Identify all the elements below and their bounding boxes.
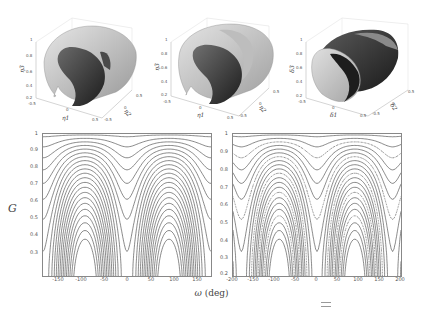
contour-line bbox=[233, 169, 401, 276]
z-tick: 1 bbox=[300, 38, 303, 42]
contour-line bbox=[56, 178, 197, 276]
y-tick: 1 bbox=[22, 131, 38, 136]
equals-mark bbox=[321, 302, 331, 307]
contour-line bbox=[264, 216, 370, 276]
contour-line bbox=[43, 153, 211, 200]
x-tick: 150 bbox=[369, 277, 389, 282]
x-tick: 50 bbox=[327, 277, 347, 282]
contour-line bbox=[72, 231, 182, 277]
z-tick: 1 bbox=[165, 38, 168, 42]
y-tick: 0.3 bbox=[212, 255, 228, 260]
contour-line bbox=[253, 178, 380, 276]
contour-line bbox=[233, 165, 401, 276]
contour-line bbox=[70, 223, 184, 276]
x-tick: -150 bbox=[243, 277, 263, 282]
x-axis-label: δ1 bbox=[330, 112, 337, 118]
contour-plot-left-graphic bbox=[43, 134, 211, 276]
x-tick: -0.5 bbox=[163, 100, 171, 104]
surface-plot-c: 1 0.8 0.6 0.4 0.2 δ3 -0.5 0 0.5 δ1 -0.5 … bbox=[282, 0, 423, 128]
y-tick: -0.5 bbox=[104, 118, 112, 122]
contour-line bbox=[252, 173, 383, 276]
omega-unit: (deg) bbox=[205, 288, 229, 298]
contour-line bbox=[58, 182, 196, 276]
contour-plot-left bbox=[42, 133, 212, 277]
contour-line bbox=[63, 198, 191, 276]
z-tick: 0.2 bbox=[26, 96, 32, 100]
contour-line bbox=[233, 135, 401, 137]
contour-line bbox=[269, 239, 365, 276]
z-tick: 0.6 bbox=[296, 66, 302, 70]
y-tick: 1 bbox=[212, 131, 228, 136]
y-tick: 0.4 bbox=[22, 232, 38, 237]
surface-plot-c-graphic bbox=[282, 0, 423, 128]
x-tick: -100 bbox=[264, 277, 284, 282]
y-tick: 0.5 bbox=[22, 215, 38, 220]
z-tick: 0.6 bbox=[26, 70, 32, 74]
contour-line bbox=[233, 138, 401, 147]
x-tick: -50 bbox=[285, 277, 305, 282]
contour-line bbox=[43, 138, 211, 147]
z-tick: 0.2 bbox=[161, 93, 167, 97]
y-tick: 0.9 bbox=[212, 149, 228, 154]
y-tick: 0.6 bbox=[212, 202, 228, 207]
contour-line bbox=[67, 209, 188, 276]
z-tick: 0.4 bbox=[161, 80, 167, 84]
x-tick: 0.5 bbox=[227, 116, 233, 120]
contour-line bbox=[43, 142, 211, 158]
contour-line bbox=[43, 149, 211, 183]
contour-line bbox=[43, 135, 211, 137]
y-axis-label-G: G bbox=[8, 202, 17, 215]
y-tick: 0.5 bbox=[273, 90, 279, 94]
x-tick: 0 bbox=[66, 108, 69, 112]
x-axis-label-omega: ω (deg) bbox=[0, 288, 423, 298]
contour-line bbox=[260, 198, 375, 276]
z-tick: 1 bbox=[30, 38, 33, 42]
z-tick: 0.8 bbox=[161, 52, 167, 56]
y-tick: 0.5 bbox=[212, 220, 228, 225]
y-tick: 0.9 bbox=[22, 147, 38, 152]
y-tick: 0.5 bbox=[408, 90, 414, 94]
y-tick: 0.6 bbox=[22, 198, 38, 203]
x-axis-label: η1 bbox=[62, 115, 69, 121]
x-tick: 100 bbox=[348, 277, 368, 282]
z-tick: 0.4 bbox=[296, 80, 302, 84]
z-axis-label: η3 bbox=[154, 63, 160, 70]
z-tick: 0.8 bbox=[26, 54, 32, 58]
x-tick: -150 bbox=[48, 277, 68, 282]
contour-line bbox=[54, 173, 200, 276]
y-tick: 0.4 bbox=[212, 238, 228, 243]
surface-plot-a: 1 0.8 0.6 0.4 0.2 η3 -0.5 0 0.5 η1 -0.5 … bbox=[0, 0, 141, 128]
x-tick: -0.5 bbox=[28, 102, 36, 106]
contour-line bbox=[257, 187, 378, 276]
x-axis-label: η1 bbox=[197, 112, 204, 118]
y-tick: 0.7 bbox=[212, 185, 228, 190]
z-axis-label: η3 bbox=[19, 65, 25, 72]
surface-plot-a-graphic bbox=[0, 0, 141, 128]
contour-line bbox=[263, 209, 372, 276]
x-tick: 150 bbox=[187, 277, 207, 282]
z-tick: 0.2 bbox=[296, 94, 302, 98]
contour-line bbox=[68, 216, 186, 276]
z-tick: 0.6 bbox=[161, 66, 167, 70]
x-tick: 0 bbox=[199, 106, 202, 110]
x-tick: -100 bbox=[71, 277, 91, 282]
x-tick: 0 bbox=[332, 106, 335, 110]
y-tick: 0.8 bbox=[212, 167, 228, 172]
z-tick: 0.8 bbox=[296, 52, 302, 56]
surface-plot-b: 1 0.8 0.6 0.4 0.2 η3 -0.5 0 0.5 η1 -0.5 … bbox=[141, 0, 282, 128]
y-tick: 0.8 bbox=[22, 164, 38, 169]
contour-plot-right-graphic bbox=[233, 134, 401, 276]
y-tick: 0.3 bbox=[22, 250, 38, 255]
x-tick: 100 bbox=[164, 277, 184, 282]
x-tick: 50 bbox=[141, 277, 161, 282]
y-tick: -0.5 bbox=[372, 112, 380, 116]
x-tick: -200 bbox=[222, 277, 242, 282]
y-tick: -0.5 bbox=[239, 114, 247, 118]
x-tick: 0.5 bbox=[360, 114, 366, 118]
x-tick: 0 bbox=[306, 277, 326, 282]
z-axis-label: δ3 bbox=[289, 65, 295, 72]
contour-line bbox=[233, 142, 401, 158]
contour-line bbox=[255, 182, 379, 276]
contour-line bbox=[267, 231, 366, 277]
x-tick: -50 bbox=[94, 277, 114, 282]
